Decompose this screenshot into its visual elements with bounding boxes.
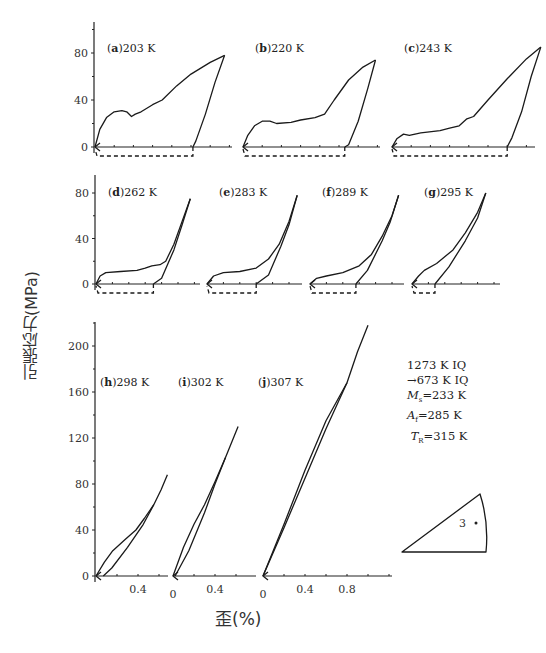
recovery-path — [207, 284, 256, 293]
panel-label: (e)283 K — [219, 186, 268, 199]
y-tick-label: 40 — [75, 524, 89, 537]
loading-curve — [243, 60, 376, 147]
stress-strain-figure: 04080(a)203 K(b)220 K(c)243 K04080(d)262… — [0, 0, 546, 653]
unloading-curve — [175, 458, 225, 576]
y-tick-label: 0 — [82, 278, 89, 291]
panel-b: (b)220 K — [243, 42, 380, 156]
x-tick-label: 0 — [170, 588, 177, 601]
panel-f: (f)289 K — [310, 186, 404, 293]
y-tick-label: 40 — [74, 94, 88, 107]
x-tick-label: 0 — [260, 588, 267, 601]
note-line-1: 1273 K IQ — [407, 358, 468, 373]
recovery-path — [95, 147, 193, 156]
y-tick-label: 0 — [82, 570, 89, 583]
unloading-curve — [263, 383, 347, 576]
note-line-2: →673 K IQ — [407, 373, 468, 388]
panel-j: (j)307 K00.40.8 — [258, 325, 392, 601]
note-line-ms: Ms=233 K — [407, 388, 468, 408]
y-tick-label: 80 — [74, 47, 88, 60]
loading-curve — [392, 47, 541, 147]
unloading-curve — [256, 195, 297, 284]
panel-label: (j)307 K — [258, 376, 304, 389]
x-tick-label: 0.8 — [338, 583, 356, 596]
y-tick-label: 200 — [68, 340, 89, 353]
y-axis-label: 引張応力(MPa) — [20, 250, 50, 400]
y-tick-label: 80 — [75, 478, 89, 491]
panel-label: (d)262 K — [108, 186, 158, 199]
panel-label: (f)289 K — [322, 186, 369, 199]
recovery-path — [243, 147, 345, 156]
x-axis-label: 歪(%) — [215, 605, 261, 630]
panel-e: (e)283 K — [207, 186, 302, 293]
recovery-path — [412, 284, 435, 293]
y-tick-label: 80 — [75, 187, 89, 200]
loading-curve — [95, 55, 225, 147]
panel-label: (a)203 K — [107, 42, 156, 55]
note-line-af: Af=285 K — [407, 408, 468, 428]
unloading-curve — [356, 195, 399, 284]
note-line-tr: TR=315 K — [407, 429, 468, 449]
panel-h: (h)298 K0.4 — [96, 376, 168, 596]
x-tick-label: 0.4 — [206, 583, 224, 596]
y-tick-label: 40 — [75, 233, 89, 246]
y-tick-label: 120 — [68, 432, 89, 445]
x-tick-label: 0.4 — [296, 583, 314, 596]
panel-label: (g)295 K — [424, 186, 474, 199]
panel-label: (c)243 K — [404, 42, 453, 55]
y-tick-label: 0 — [81, 141, 88, 154]
panel-label: (i)302 K — [178, 376, 224, 389]
panel-a: (a)203 K — [95, 42, 232, 156]
row-middle: 04080(d)262 K(e)283 K(f)289 K(g)295 K — [75, 175, 500, 293]
y-tick-label: 160 — [68, 386, 89, 399]
panel-c: (c)243 K — [392, 42, 541, 156]
panel-i: (i)302 K00.4 — [170, 376, 257, 601]
recovery-path — [96, 284, 153, 293]
loading-curve — [412, 193, 486, 284]
condition-notes: 1273 K IQ →673 K IQ Ms=233 K Af=285 K TR… — [407, 358, 468, 449]
unloading-curve — [153, 199, 190, 284]
x-tick-label: 0.4 — [129, 583, 147, 596]
panel-d: (d)262 K — [96, 186, 200, 293]
recovery-path — [310, 284, 356, 293]
loading-curve — [310, 195, 399, 284]
recovery-path — [392, 147, 507, 156]
loading-curve — [96, 475, 167, 576]
panel-g: (g)295 K — [412, 186, 500, 293]
unloading-curve — [345, 60, 376, 147]
stereographic-triangle-inset: 3 — [402, 494, 487, 552]
row-bottom: 04080120160200(h)298 K0.4(i)302 K00.4(j)… — [68, 322, 392, 601]
loading-curve — [173, 427, 238, 577]
orientation-label: 3 — [459, 517, 466, 530]
unloading-curve — [193, 55, 225, 147]
row-top: 04080(a)203 K(b)220 K(c)243 K — [74, 22, 541, 156]
panel-label: (h)298 K — [100, 376, 150, 389]
panel-label: (b)220 K — [255, 42, 305, 55]
